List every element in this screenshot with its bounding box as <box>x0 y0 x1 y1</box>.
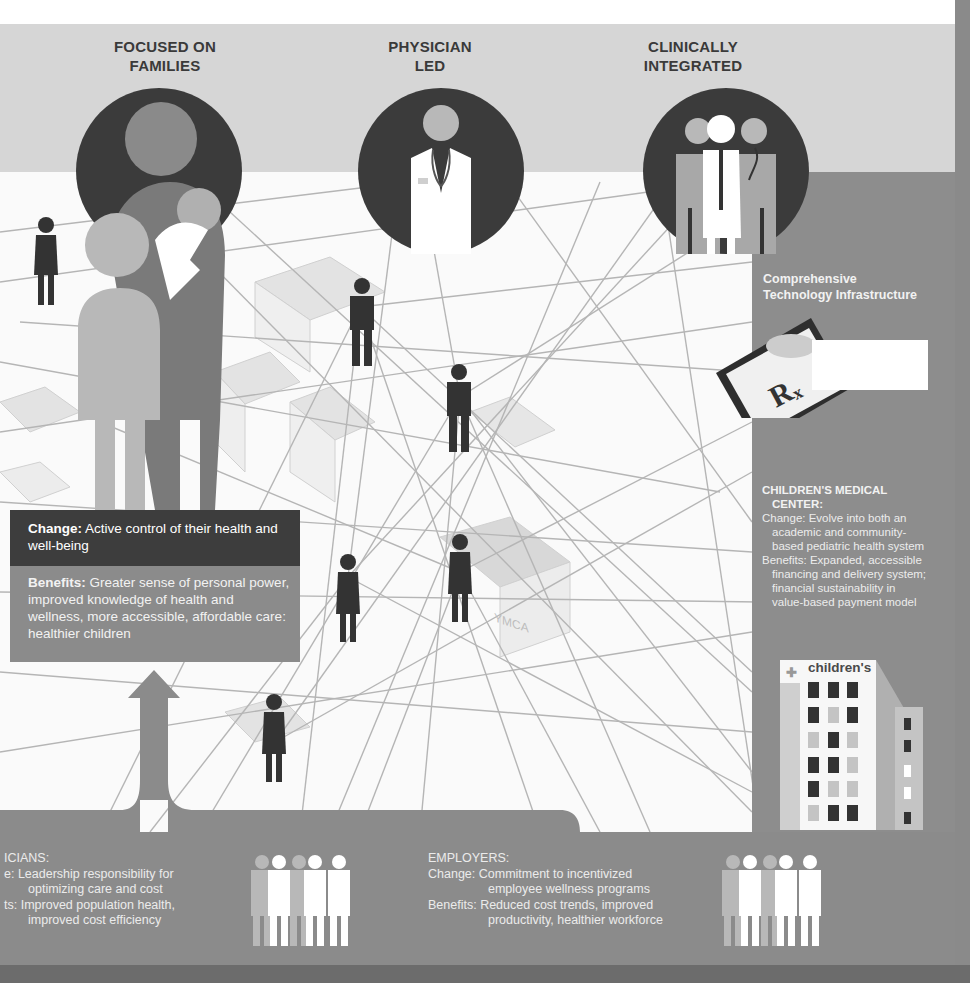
person-icon <box>444 532 476 627</box>
benefits-label: ts: <box>4 898 17 912</box>
employers-group-icon <box>719 852 829 948</box>
employers-title: EMPLOYERS: <box>428 851 708 867</box>
physicians-group-icon <box>248 852 358 948</box>
person-icon <box>30 215 64 310</box>
benefits-line: Reduced cost trends, improved <box>480 898 653 912</box>
header-physician: PHYSICIAN LED <box>355 37 505 75</box>
benefits-label: Benefits: <box>428 898 477 912</box>
doctor-icon <box>358 88 524 254</box>
benefits-line: productivity, healthier workforce <box>428 913 708 929</box>
family-icon <box>60 90 240 520</box>
physicians-text: ICIANS: e: Leadership responsibility for… <box>4 851 234 929</box>
top-margin <box>0 0 970 24</box>
change-line: Commitment to incentivized <box>479 867 633 881</box>
plus-cross-icon: ✚ <box>786 665 797 680</box>
employers-text: EMPLOYERS: Change: Commitment to incenti… <box>428 851 708 929</box>
flow-arrow-icon <box>0 660 770 840</box>
change-label: Change: <box>28 521 82 536</box>
medical-center-text: CHILDREN'S MEDICAL CENTER: Change: Evolv… <box>762 484 957 609</box>
header-clinical: CLINICALLY INTEGRATED <box>618 37 768 75</box>
title-line: Technology Infrastructure <box>763 287 917 303</box>
person-icon <box>332 552 364 647</box>
person-icon <box>346 276 378 371</box>
header-line: FAMILIES <box>90 56 240 75</box>
mc-change-line: based pediatric health system <box>762 539 957 553</box>
header-line: CLINICALLY <box>618 37 768 56</box>
benefits-line: improved cost efficiency <box>4 913 234 929</box>
families-benefits-box: Benefits: Greater sense of personal powe… <box>10 566 300 662</box>
bottom-bar <box>0 965 970 983</box>
hospital-sign: children's <box>808 660 871 675</box>
right-edge <box>955 0 970 983</box>
mc-benefits-line: value-based payment model <box>762 595 957 609</box>
mc-change-line: academic and community- <box>762 525 957 539</box>
header-line: FOCUSED ON <box>90 37 240 56</box>
hospital-building-icon: ✚ <box>780 655 930 830</box>
header-line: LED <box>355 56 505 75</box>
person-icon <box>443 362 475 457</box>
mc-title: CENTER: <box>762 498 957 512</box>
technology-title: Comprehensive Technology Infrastructure <box>763 271 917 303</box>
care-team-icon <box>643 88 809 254</box>
change-line: employee wellness programs <box>428 882 708 898</box>
header-line: INTEGRATED <box>618 56 768 75</box>
change-label: Change: <box>428 867 475 881</box>
change-label: e: <box>4 867 14 881</box>
header-families: FOCUSED ON FAMILIES <box>90 37 240 75</box>
benefits-line: Improved population health, <box>21 898 175 912</box>
mc-benefits-line: Benefits: Expanded, accessible <box>762 553 957 567</box>
tablet-rx-icon: Rₓ <box>716 318 936 418</box>
header-line: PHYSICIAN <box>355 37 505 56</box>
change-line: Leadership responsibility for <box>18 867 174 881</box>
physicians-title: ICIANS: <box>4 851 234 867</box>
benefits-label: Benefits: <box>28 575 86 590</box>
families-change-box: Change: Active control of their health a… <box>10 510 300 566</box>
title-line: Comprehensive <box>763 271 917 287</box>
mc-change-line: Change: Evolve into both an <box>762 511 957 525</box>
mc-benefits-line: financial sustainability in <box>762 581 957 595</box>
mc-title: CHILDREN'S MEDICAL <box>762 484 957 498</box>
mc-benefits-line: financing and delivery system; <box>762 567 957 581</box>
change-line: optimizing care and cost <box>4 882 234 898</box>
